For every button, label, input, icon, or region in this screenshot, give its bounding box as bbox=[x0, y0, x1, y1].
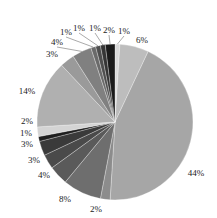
slice-label: 1% bbox=[60, 27, 73, 37]
slice-label: 8% bbox=[59, 194, 72, 204]
leader-line bbox=[79, 33, 98, 46]
slice-label: 2% bbox=[90, 204, 103, 214]
pie-slices bbox=[37, 44, 193, 200]
slice-label: 2% bbox=[21, 116, 34, 126]
slice-label: 3% bbox=[21, 139, 34, 149]
slice-label: 1% bbox=[20, 128, 33, 138]
slice-label: 1% bbox=[89, 23, 102, 33]
slice-label: 3% bbox=[46, 49, 59, 59]
slice-label: 2% bbox=[103, 25, 116, 35]
slice-label: 3% bbox=[28, 155, 41, 165]
pie-chart: 1%6%44%2%8%4%3%3%1%2%14%3%4%1%1%1%2% bbox=[0, 0, 217, 218]
slice-label: 44% bbox=[188, 168, 205, 178]
slice-label: 4% bbox=[38, 170, 51, 180]
leader-line bbox=[117, 36, 124, 44]
slice-label: 14% bbox=[19, 86, 36, 96]
slice-label: 1% bbox=[73, 23, 86, 33]
leader-line bbox=[57, 47, 82, 51]
leader-line bbox=[109, 35, 110, 44]
slice-label: 1% bbox=[118, 26, 131, 36]
leader-line bbox=[66, 37, 93, 47]
slice-label: 6% bbox=[136, 35, 149, 45]
slice-label: 4% bbox=[51, 37, 64, 47]
leader-line bbox=[95, 33, 103, 45]
